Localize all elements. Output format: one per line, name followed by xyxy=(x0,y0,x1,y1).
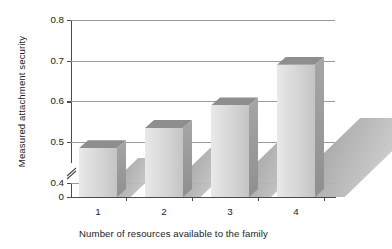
y-tick-0.6 xyxy=(67,101,71,102)
x-axis-title: Number of resources available to the fam… xyxy=(0,228,347,239)
bar-side-face xyxy=(249,97,258,197)
y-tick-label: 0.8 xyxy=(50,15,64,25)
bar-3[interactable] xyxy=(211,97,258,197)
x-axis-line xyxy=(71,197,336,198)
bar-front-face xyxy=(211,105,249,197)
x-tick-label-3: 3 xyxy=(227,206,232,217)
y-tick-label: 0.4 xyxy=(50,178,64,188)
x-tick xyxy=(258,197,259,201)
y-axis-title: Measured attachment security xyxy=(16,12,27,192)
y-tick-0.8 xyxy=(67,20,71,21)
bar-side-face xyxy=(117,140,126,197)
y-tick-0 xyxy=(67,197,71,198)
x-tick xyxy=(126,197,127,201)
bar-front-face xyxy=(277,65,315,197)
gridline-0.8 xyxy=(71,20,335,21)
bar-side-face xyxy=(315,57,324,197)
x-tick-label-2: 2 xyxy=(161,206,166,217)
x-tick xyxy=(324,197,325,201)
x-tick-label-1: 1 xyxy=(95,206,100,217)
bar-1[interactable] xyxy=(79,140,126,197)
y-tick-0.4 xyxy=(67,183,71,184)
y-tick-label: 0 xyxy=(59,192,64,202)
bar-side-face xyxy=(183,120,192,197)
y-axis-line xyxy=(71,20,72,198)
y-tick-label: 0.6 xyxy=(50,97,64,107)
bar-2[interactable] xyxy=(145,120,192,197)
y-tick-0.7 xyxy=(67,61,71,62)
plot-area: 00.40.50.60.70.8 1234 xyxy=(71,20,335,197)
bar-front-face xyxy=(145,128,183,197)
x-tick xyxy=(192,197,193,201)
y-tick-label: 0.5 xyxy=(50,137,64,147)
y-tick-label: 0.7 xyxy=(50,56,64,66)
bar-4[interactable] xyxy=(277,57,324,197)
bar-shadow xyxy=(313,118,392,197)
y-tick-0.5 xyxy=(67,142,71,143)
x-tick-label-4: 4 xyxy=(293,206,298,217)
bar-front-face xyxy=(79,148,117,197)
